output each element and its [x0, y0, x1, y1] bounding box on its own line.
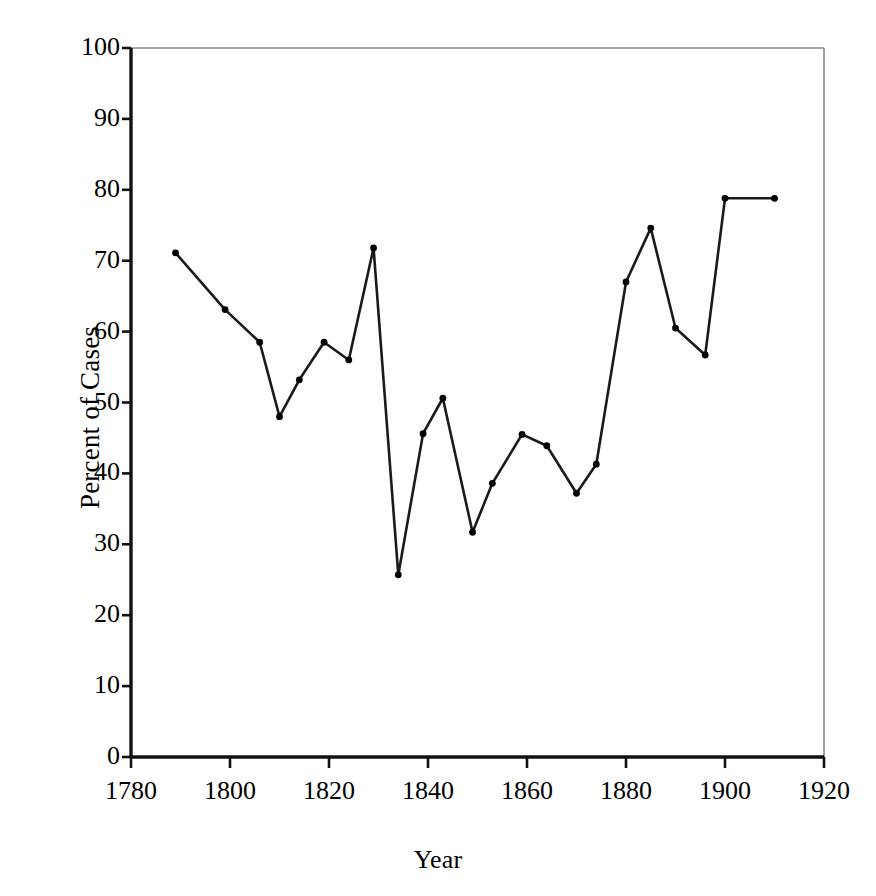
- data-point: [420, 430, 427, 437]
- data-point: [370, 245, 377, 252]
- data-point: [623, 279, 630, 286]
- data-point: [276, 413, 283, 420]
- data-point: [296, 376, 303, 383]
- data-point: [702, 352, 709, 359]
- series-line: [176, 198, 775, 574]
- data-point: [439, 395, 446, 402]
- data-point: [647, 225, 654, 232]
- data-point: [395, 571, 402, 578]
- data-point: [172, 250, 179, 257]
- chart-container: 0102030405060708090100 17801800182018401…: [0, 0, 876, 896]
- data-point: [722, 195, 729, 202]
- plot-frame: [131, 48, 824, 757]
- data-point: [222, 306, 229, 313]
- axis-ticks: [122, 48, 824, 768]
- data-series: [176, 198, 775, 574]
- data-point: [672, 325, 679, 332]
- data-point: [256, 339, 263, 346]
- data-point: [489, 480, 496, 487]
- data-point: [469, 529, 476, 536]
- data-point: [519, 431, 526, 438]
- data-point: [345, 357, 352, 364]
- data-markers: [172, 195, 778, 578]
- data-point: [543, 442, 550, 449]
- data-point: [573, 490, 580, 497]
- plot-area: [0, 0, 876, 896]
- data-point: [321, 339, 328, 346]
- data-point: [771, 195, 778, 202]
- data-point: [593, 461, 600, 468]
